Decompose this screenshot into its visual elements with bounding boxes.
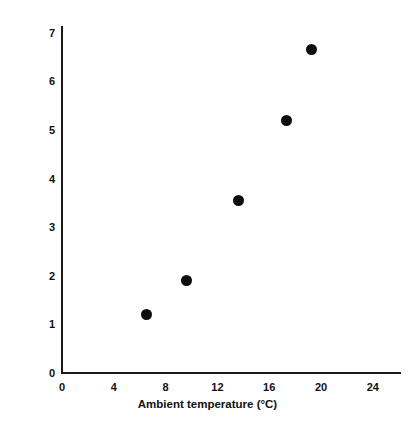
x-tick-label: 24 [367, 382, 379, 393]
chart-figure: 01234567 04812162024 Ambient temperature… [0, 0, 415, 430]
data-point [141, 309, 152, 320]
x-axis-title: Ambient temperature (°C) [0, 398, 415, 410]
x-tick-label: 4 [111, 382, 117, 393]
x-tick-label: 12 [211, 382, 223, 393]
x-tick-label: 20 [315, 382, 327, 393]
y-axis-line [61, 26, 63, 374]
y-tick-label: 6 [49, 76, 55, 87]
y-tick-label: 5 [49, 125, 55, 136]
data-point [233, 195, 244, 206]
x-tick-label: 16 [263, 382, 275, 393]
plot-area: 01234567 04812162024 Ambient temperature… [0, 0, 415, 430]
x-tick-label: 8 [163, 382, 169, 393]
y-tick-label: 0 [49, 368, 55, 379]
y-tick-label: 4 [49, 173, 55, 184]
x-tick-label: 0 [59, 382, 65, 393]
data-point [281, 115, 292, 126]
y-tick-label: 2 [49, 270, 55, 281]
data-point [306, 44, 317, 55]
y-tick-label: 7 [49, 27, 55, 38]
x-axis-line [61, 372, 401, 374]
data-point [181, 275, 192, 286]
y-tick-label: 1 [49, 319, 55, 330]
y-tick-label: 3 [49, 222, 55, 233]
